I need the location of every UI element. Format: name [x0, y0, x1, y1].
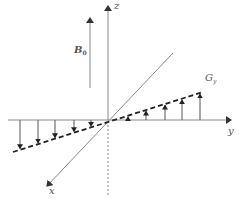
z-axis-label: z	[113, 0, 120, 11]
b0-label-sub: 0	[82, 49, 86, 56]
b0-label: B0	[73, 44, 87, 56]
gy-label: Gy	[205, 72, 217, 85]
x-axis-label: x	[49, 185, 55, 196]
b0-label-main: B	[73, 44, 82, 55]
y-axis-label: y	[227, 125, 234, 136]
gradient-field-diagram: z y x B0 Gy	[0, 0, 239, 202]
gy-label-sub: y	[212, 77, 217, 85]
gy-label-main: G	[205, 72, 213, 83]
diagram-svg: z y x B0 Gy	[0, 0, 239, 202]
